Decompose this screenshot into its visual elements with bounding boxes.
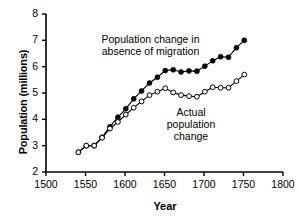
- population-change-chart: Population (millions) Year 2345678 15001…: [0, 0, 299, 220]
- annotation-actual-line2: population: [151, 118, 231, 130]
- annotation-actual-line1: Actual: [151, 106, 231, 118]
- annotation-absence-line2: absence of migration: [93, 45, 208, 57]
- annotation-absence-of-migration: Population change in absence of migratio…: [93, 33, 208, 57]
- annotation-absence-line1: Population change in: [93, 33, 208, 45]
- annotation-actual-line3: change: [151, 130, 231, 142]
- annotation-actual-population: Actual population change: [151, 106, 231, 142]
